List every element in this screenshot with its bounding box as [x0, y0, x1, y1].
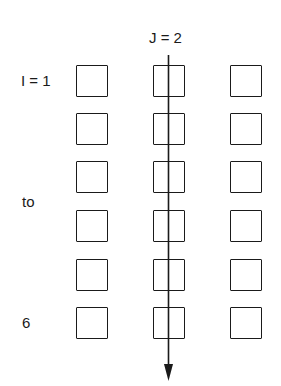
down-arrow-icon: [0, 0, 281, 386]
loop-iteration-diagram: J = 2 I = 1 to 6: [0, 0, 281, 386]
